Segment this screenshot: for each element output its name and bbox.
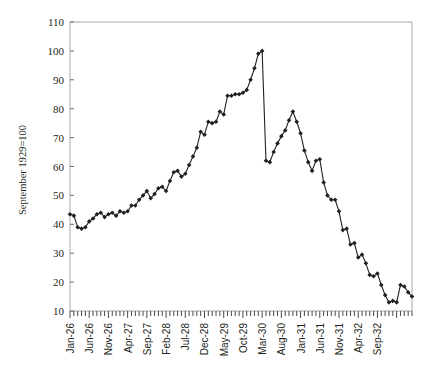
x-tick-label: May-29 <box>219 323 230 357</box>
y-tick-label: 40 <box>53 218 65 230</box>
x-tick-label: Nov-26 <box>103 323 114 356</box>
chart-container: 102030405060708090100110 Jan-26Jun-26Nov… <box>0 0 437 373</box>
x-tick-label: Sep-32 <box>372 323 383 356</box>
y-tick-label: 100 <box>48 45 65 57</box>
x-tick-label: Jul-28 <box>180 323 191 351</box>
x-tick-label: Feb-28 <box>161 323 172 355</box>
x-tick-label: Sep-27 <box>142 323 153 356</box>
x-tick-label: Oct-29 <box>238 323 249 353</box>
y-tick-label: 50 <box>53 189 65 201</box>
y-tick-label: 60 <box>53 161 65 173</box>
x-tick-label: Apr-27 <box>123 323 134 353</box>
y-tick-label: 80 <box>53 103 65 115</box>
y-tick-label: 110 <box>48 16 65 28</box>
x-axis-tick-labels: Jan-26Jun-26Nov-26Apr-27Sep-27Feb-28Jul-… <box>65 323 383 357</box>
x-tick-label: Aug-30 <box>276 323 287 356</box>
y-axis-title: September 1929=100 <box>17 125 28 215</box>
x-tick-label: Dec-28 <box>199 323 210 356</box>
y-tick-label: 70 <box>53 132 65 144</box>
chart-background <box>0 0 437 373</box>
y-tick-label: 30 <box>53 247 65 259</box>
y-tick-label: 20 <box>53 276 65 288</box>
x-tick-label: Jan-31 <box>296 323 307 354</box>
y-tick-label: 90 <box>53 74 65 86</box>
x-tick-label: Jan-26 <box>65 323 76 354</box>
line-chart: 102030405060708090100110 Jan-26Jun-26Nov… <box>0 0 437 373</box>
y-tick-label: 10 <box>53 305 65 317</box>
x-tick-label: Mar-30 <box>257 323 268 355</box>
x-tick-label: Apr-32 <box>353 323 364 353</box>
x-tick-label: Jun-31 <box>315 323 326 354</box>
x-tick-label: Jun-26 <box>84 323 95 354</box>
x-tick-label: Nov-31 <box>334 323 345 356</box>
